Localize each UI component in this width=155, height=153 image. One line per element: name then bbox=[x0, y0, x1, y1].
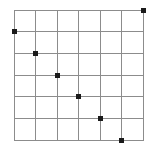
data-point-marker bbox=[141, 8, 146, 13]
data-point-marker bbox=[98, 116, 103, 121]
data-point-marker bbox=[76, 94, 81, 99]
scatter-plot bbox=[0, 0, 155, 153]
plot-background bbox=[0, 0, 155, 153]
data-point-marker bbox=[33, 51, 38, 56]
data-point-marker bbox=[119, 138, 124, 143]
data-point-marker bbox=[55, 73, 60, 78]
figure-root bbox=[0, 0, 155, 153]
data-point-marker bbox=[12, 29, 17, 34]
